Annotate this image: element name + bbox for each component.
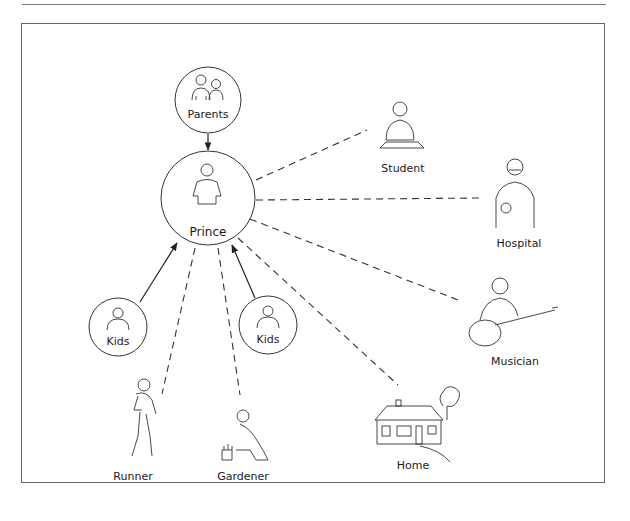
node-student: Student (380, 102, 425, 175)
identity-diagram: Parents Prince Kids Kids Student (0, 0, 630, 521)
node-runner: Runner (113, 379, 156, 483)
student-label: Student (381, 162, 425, 175)
node-kids-left: Kids (89, 298, 147, 356)
parents-label: Parents (188, 108, 229, 121)
musician-label: Musician (491, 355, 539, 368)
home-label: Home (397, 459, 430, 472)
hospital-label: Hospital (497, 237, 542, 250)
node-home: Home (375, 387, 460, 472)
kids-right-label: Kids (257, 333, 280, 346)
runner-icon (132, 379, 156, 456)
node-prince: Prince (161, 151, 255, 245)
student-icon (380, 102, 424, 148)
node-hospital: Hospital (496, 159, 541, 250)
house-icon (375, 387, 460, 462)
node-musician: Musician (469, 278, 558, 368)
kids-left-label: Kids (107, 335, 130, 348)
node-kids-right: Kids (239, 296, 297, 354)
prince-label: Prince (190, 225, 227, 239)
doctor-icon (496, 159, 534, 228)
gardener-icon (222, 410, 268, 460)
gardener-label: Gardener (217, 470, 269, 483)
runner-label: Runner (113, 470, 153, 483)
node-gardener: Gardener (217, 410, 269, 483)
node-parents: Parents (175, 67, 241, 133)
guitarist-icon (469, 278, 558, 346)
